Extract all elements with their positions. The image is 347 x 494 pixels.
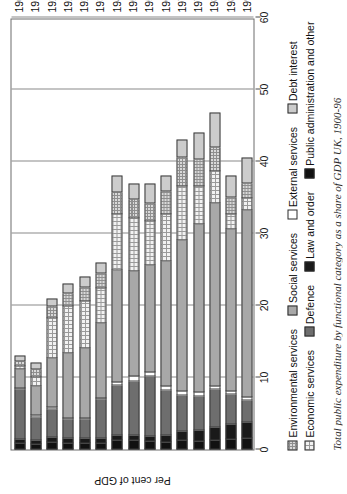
category-label-1964: 1964 (159, 0, 171, 12)
value-axis-title-text: Per cent of GDP (94, 475, 170, 487)
legend-row-2: Economic servicesDefenceLaw and orderPub… (303, 2, 315, 450)
category-label-1924: 1924 (61, 0, 73, 12)
value-axis-tick (255, 160, 260, 161)
value-axis-tick (255, 304, 260, 305)
legend-item-law: Law and order (303, 191, 315, 271)
chart-figure: Per cent of GDP 0102030405060 1900191319… (0, 0, 347, 494)
category-label-1982: 1982 (207, 0, 219, 12)
legend-swatch-public-icon (304, 168, 314, 178)
value-axis-tick (255, 376, 260, 377)
legend-item-environmental: Environmental services (286, 328, 298, 450)
category-label-1955: 1955 (142, 0, 154, 12)
legend-item-external: External services (286, 126, 298, 219)
legend-swatch-environmental-icon (287, 440, 297, 450)
legend-item-defence: Defence (303, 284, 315, 336)
legend-swatch-social-icon (287, 305, 297, 315)
category-label-1951: 1951 (126, 0, 138, 12)
legend-label-defence: Defence (303, 284, 315, 323)
value-axis-tick (255, 16, 260, 17)
legend-swatch-defence-icon (304, 326, 314, 336)
category-label-1948: 1948 (110, 0, 122, 12)
legend-label-social: Social services (286, 232, 298, 302)
legend-swatch-law-icon (304, 261, 314, 271)
value-axis-tick (255, 448, 260, 449)
legend-label-economic: Economic services (303, 349, 315, 437)
legend-label-public: Public administration and other (303, 21, 315, 165)
legend-label-environmental: Environmental services (286, 328, 298, 437)
gridline (11, 16, 253, 17)
legend-label-external: External services (286, 126, 298, 206)
chart-rotation-wrapper: Per cent of GDP 0102030405060 1900191319… (0, 0, 347, 494)
legend-row-1: Environmental servicesSocial servicesExt… (286, 2, 298, 450)
legend-swatch-debt-icon (287, 103, 297, 113)
legend-swatch-external-icon (287, 209, 297, 219)
legend-label-law: Law and order (303, 191, 315, 258)
category-label-1937: 1937 (93, 0, 105, 12)
legend: Environmental servicesSocial servicesExt… (286, 2, 320, 450)
legend-swatch-economic-icon (304, 440, 314, 450)
category-label-1913: 1913 (28, 0, 40, 12)
category-label-1900: 1900 (12, 0, 24, 12)
category-label-1989: 1989 (224, 0, 236, 12)
figure-caption: Total public expenditure by functional c… (330, 0, 342, 450)
category-axis-labels: 1900191319201924192919371948195119551964… (10, 18, 254, 450)
legend-item-social: Social services (286, 232, 298, 315)
legend-label-debt: Debt interest (286, 41, 298, 101)
category-label-1979: 1979 (191, 0, 203, 12)
value-axis-title: Per cent of GDP (10, 474, 254, 488)
value-axis-tick (255, 232, 260, 233)
category-label-1996: 1996 (240, 0, 252, 12)
legend-item-debt: Debt interest (286, 41, 298, 114)
category-label-1973: 1973 (175, 0, 187, 12)
rotated-chart-stage: Per cent of GDP 0102030405060 1900191319… (0, 0, 347, 494)
legend-item-public: Public administration and other (303, 21, 315, 178)
category-label-1929: 1929 (77, 0, 89, 12)
category-label-1920: 1920 (45, 0, 57, 12)
value-axis-tick (255, 88, 260, 89)
legend-item-economic: Economic services (303, 349, 315, 450)
